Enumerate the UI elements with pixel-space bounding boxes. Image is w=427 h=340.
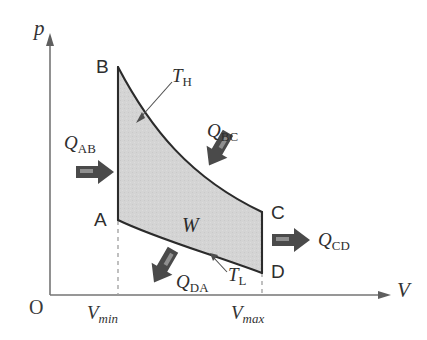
isotherm-label-cold: TL xyxy=(228,265,247,288)
pv-diagram-figure: p V O Vmin Vmax B A C D TH TL W QAB QBC … xyxy=(0,0,427,340)
work-label: W xyxy=(182,215,199,235)
y-axis-label: p xyxy=(34,18,45,39)
qcd-subscript: CD xyxy=(332,238,350,253)
vmax-subscript: max xyxy=(243,311,265,326)
x-axis-label: V xyxy=(397,280,410,301)
tl-subscript: L xyxy=(239,273,247,288)
y-axis-arrowhead xyxy=(46,33,54,46)
th-subscript: H xyxy=(183,74,193,89)
th-leader-line xyxy=(141,82,172,117)
diagram-canvas xyxy=(0,0,427,340)
qab-subscript: AB xyxy=(78,141,96,156)
isotherm-label-hot: TH xyxy=(172,66,192,89)
tl-symbol: T xyxy=(228,264,239,285)
qab-arrow-glyph xyxy=(76,160,114,184)
qbc-subscript: BC xyxy=(221,129,239,144)
vmin-symbol: V xyxy=(87,302,99,323)
vertex-label-a: A xyxy=(94,210,107,229)
heat-label-qda: QDA xyxy=(176,272,209,295)
qcd-symbol: Q xyxy=(318,229,332,250)
vertex-label-b: B xyxy=(96,57,109,76)
th-symbol: T xyxy=(172,65,183,86)
vmax-symbol: V xyxy=(231,302,243,323)
qbc-symbol: Q xyxy=(207,120,221,141)
vertex-label-d: D xyxy=(271,262,285,281)
vmin-subscript: min xyxy=(99,311,118,326)
x-axis-arrowhead xyxy=(378,291,391,299)
work-shaded-region xyxy=(118,67,262,273)
heat-label-qab: QAB xyxy=(64,133,96,156)
qab-symbol: Q xyxy=(64,132,78,153)
qda-symbol: Q xyxy=(176,271,190,292)
heat-label-qbc: QBC xyxy=(207,121,238,144)
qda-subscript: DA xyxy=(190,280,209,295)
qcd-arrow-glyph xyxy=(272,228,310,252)
x-tick-vmax: Vmax xyxy=(231,303,264,326)
vertex-label-c: C xyxy=(271,203,285,222)
origin-label: O xyxy=(29,297,43,317)
heat-label-qcd: QCD xyxy=(318,230,350,253)
x-tick-vmin: Vmin xyxy=(87,303,118,326)
